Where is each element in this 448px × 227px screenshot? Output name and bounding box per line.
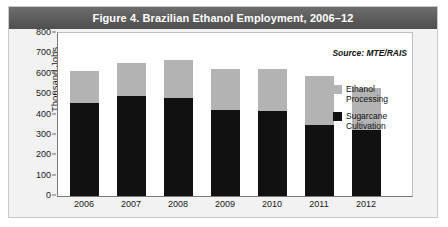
bar-segment-ethanol-processing (258, 69, 287, 112)
y-tick-label: 400 (36, 109, 51, 119)
y-tick-label: 700 (36, 47, 51, 57)
y-tick-mark (52, 32, 56, 33)
bar-segment-sugarcane-cultivation (70, 103, 99, 196)
x-tick-label: 2009 (205, 199, 245, 215)
bar-segment-sugarcane-cultivation (117, 96, 146, 196)
stacked-bar (70, 71, 99, 196)
y-tick-label: 200 (36, 149, 51, 159)
y-tick-label: 100 (36, 170, 51, 180)
y-tick-label: 600 (36, 68, 51, 78)
chart-legend: EthanolProcessingSugarcaneCultivation (333, 84, 411, 138)
y-tick-mark (52, 72, 56, 73)
x-tick-label: 2012 (346, 199, 386, 215)
legend-label: SugarcaneCultivation (346, 111, 387, 131)
bar-segment-sugarcane-cultivation (305, 125, 334, 196)
bar-segment-ethanol-processing (117, 63, 146, 96)
stacked-bar (164, 60, 193, 197)
y-tick-mark (52, 113, 56, 114)
bar-segment-sugarcane-cultivation (352, 130, 381, 196)
legend-swatch (333, 85, 342, 94)
x-tick-label: 2007 (111, 199, 151, 215)
bar-segment-ethanol-processing (305, 76, 334, 125)
stacked-bar (117, 63, 146, 196)
y-tick-label: 800 (36, 27, 51, 37)
y-tick-mark (52, 174, 56, 175)
bar-slot (205, 33, 245, 196)
x-tick-label: 2006 (64, 199, 104, 215)
x-tick-label: 2011 (299, 199, 339, 215)
legend-label: EthanolProcessing (346, 84, 388, 104)
legend-item: SugarcaneCultivation (333, 111, 411, 131)
bar-slot (252, 33, 292, 196)
bar-segment-ethanol-processing (164, 60, 193, 99)
stacked-bar (258, 69, 287, 196)
y-tick-label: 0 (46, 190, 51, 200)
stacked-bar (305, 76, 334, 196)
legend-swatch (333, 112, 342, 121)
figure-root: Figure 4. Brazilian Ethanol Employment, … (0, 0, 448, 227)
y-tick-mark (52, 195, 56, 196)
y-tick-label: 300 (36, 129, 51, 139)
y-axis-ticks: 8007006005004003002001000 (20, 32, 56, 197)
y-tick-mark (52, 154, 56, 155)
x-axis-labels: 2006200720082009201020112012 (58, 199, 412, 215)
y-tick-mark (52, 52, 56, 53)
y-tick-mark (52, 133, 56, 134)
bar-segment-sugarcane-cultivation (258, 111, 287, 196)
y-tick-label: 500 (36, 88, 51, 98)
figure-title-bar: Figure 4. Brazilian Ethanol Employment, … (9, 7, 437, 29)
y-tick-mark (52, 93, 56, 94)
bar-slot (111, 33, 151, 196)
bar-slot (64, 33, 104, 196)
bar-segment-ethanol-processing (70, 71, 99, 103)
x-tick-label: 2008 (158, 199, 198, 215)
bar-segment-ethanol-processing (211, 69, 240, 111)
stacked-bar (211, 69, 240, 196)
page-title: Figure 4. Brazilian Ethanol Employment, … (93, 12, 354, 24)
legend-item: EthanolProcessing (333, 84, 411, 104)
bar-segment-sugarcane-cultivation (211, 110, 240, 196)
bar-segment-sugarcane-cultivation (164, 98, 193, 196)
x-tick-label: 2010 (252, 199, 292, 215)
bar-slot (158, 33, 198, 196)
